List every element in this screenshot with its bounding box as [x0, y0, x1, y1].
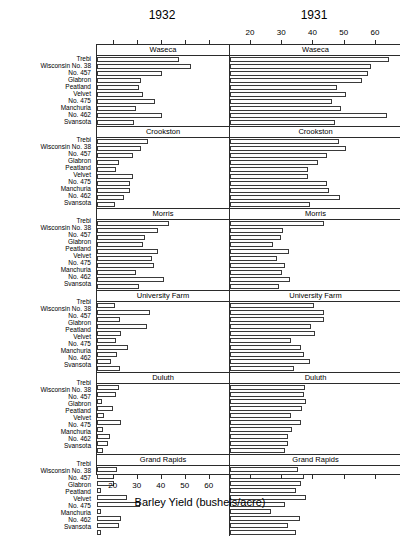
bar[interactable]: [230, 188, 329, 193]
bar[interactable]: [97, 106, 136, 111]
bar[interactable]: [230, 303, 314, 308]
bar[interactable]: [230, 99, 332, 104]
bar[interactable]: [97, 284, 139, 289]
bar[interactable]: [230, 331, 315, 336]
bar[interactable]: [230, 71, 368, 76]
bar[interactable]: [230, 202, 310, 207]
bar[interactable]: [97, 530, 101, 535]
bar[interactable]: [97, 249, 158, 254]
bar[interactable]: [97, 120, 134, 125]
bar[interactable]: [230, 427, 292, 432]
bar[interactable]: [97, 516, 121, 521]
bar[interactable]: [97, 99, 155, 104]
bar[interactable]: [97, 413, 104, 418]
bar[interactable]: [230, 284, 279, 289]
bar[interactable]: [230, 263, 285, 268]
bar[interactable]: [230, 92, 346, 97]
bar[interactable]: [97, 509, 101, 514]
bar[interactable]: [97, 303, 115, 308]
bar[interactable]: [97, 71, 162, 76]
bar[interactable]: [97, 448, 103, 453]
bar[interactable]: [97, 64, 191, 69]
bar[interactable]: [230, 85, 337, 90]
bar[interactable]: [230, 146, 346, 151]
bar[interactable]: [97, 256, 152, 261]
bar[interactable]: [230, 221, 324, 226]
bar[interactable]: [230, 57, 389, 62]
bar[interactable]: [97, 441, 108, 446]
bar[interactable]: [97, 338, 116, 343]
bar[interactable]: [230, 352, 304, 357]
bar[interactable]: [97, 167, 116, 172]
bar[interactable]: [230, 181, 327, 186]
bar[interactable]: [97, 359, 111, 364]
bar[interactable]: [97, 160, 119, 165]
bar[interactable]: [230, 392, 304, 397]
bar[interactable]: [97, 92, 143, 97]
bar[interactable]: [230, 516, 300, 521]
bar[interactable]: [97, 277, 164, 282]
bar[interactable]: [97, 235, 145, 240]
bar[interactable]: [230, 195, 340, 200]
bar[interactable]: [230, 317, 324, 322]
bar[interactable]: [97, 181, 130, 186]
bar[interactable]: [97, 385, 119, 390]
bar[interactable]: [230, 235, 281, 240]
bar[interactable]: [97, 221, 169, 226]
bar[interactable]: [230, 448, 285, 453]
bar[interactable]: [97, 366, 120, 371]
bar[interactable]: [230, 174, 308, 179]
bar[interactable]: [230, 467, 298, 472]
bar[interactable]: [97, 78, 141, 83]
bar[interactable]: [97, 467, 117, 472]
bar[interactable]: [230, 420, 301, 425]
bar[interactable]: [230, 359, 310, 364]
bar[interactable]: [97, 242, 143, 247]
bar[interactable]: [97, 174, 133, 179]
bar[interactable]: [97, 352, 117, 357]
bar[interactable]: [230, 270, 282, 275]
bar[interactable]: [230, 78, 362, 83]
bar[interactable]: [97, 324, 147, 329]
bar[interactable]: [230, 523, 288, 528]
bar[interactable]: [230, 324, 311, 329]
bar[interactable]: [230, 106, 341, 111]
bar[interactable]: [97, 113, 162, 118]
bar[interactable]: [97, 399, 102, 404]
bar[interactable]: [230, 120, 335, 125]
bar[interactable]: [230, 153, 327, 158]
bar[interactable]: [230, 310, 324, 315]
bar[interactable]: [230, 406, 302, 411]
bar[interactable]: [97, 434, 110, 439]
bar[interactable]: [97, 139, 148, 144]
bar[interactable]: [97, 406, 113, 411]
bar[interactable]: [230, 441, 288, 446]
bar[interactable]: [97, 263, 154, 268]
bar[interactable]: [230, 249, 289, 254]
bar[interactable]: [230, 530, 296, 535]
bar[interactable]: [97, 392, 116, 397]
bar[interactable]: [97, 317, 120, 322]
bar[interactable]: [230, 399, 306, 404]
bar[interactable]: [230, 481, 301, 486]
bar[interactable]: [97, 153, 133, 158]
bar[interactable]: [97, 345, 128, 350]
bar[interactable]: [230, 366, 294, 371]
bar[interactable]: [97, 202, 115, 207]
bar[interactable]: [97, 270, 136, 275]
bar[interactable]: [230, 385, 305, 390]
bar[interactable]: [97, 85, 139, 90]
bar[interactable]: [97, 146, 141, 151]
bar[interactable]: [97, 420, 121, 425]
bar[interactable]: [230, 488, 296, 493]
bar[interactable]: [97, 57, 179, 62]
bar[interactable]: [230, 434, 288, 439]
bar[interactable]: [97, 523, 119, 528]
bar[interactable]: [230, 338, 291, 343]
bar[interactable]: [230, 242, 273, 247]
bar[interactable]: [97, 427, 103, 432]
bar[interactable]: [230, 509, 271, 514]
bar[interactable]: [97, 195, 124, 200]
bar[interactable]: [97, 331, 121, 336]
bar[interactable]: [230, 345, 301, 350]
